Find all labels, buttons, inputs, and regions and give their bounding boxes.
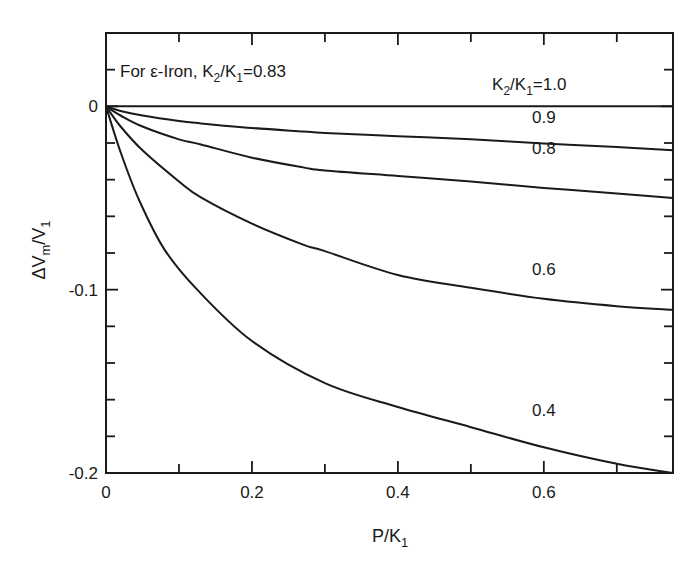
x-tick-label: 0.6 — [532, 483, 556, 502]
series-label-text: =1.0 — [533, 75, 567, 94]
y-axis-label-main: ΔV — [29, 256, 49, 280]
series-label-text: 0.4 — [532, 401, 556, 420]
plot-frame — [106, 33, 673, 473]
annotation-prefix: For ε-Iron, K — [120, 62, 214, 81]
x-axis-label: P/K1 — [372, 526, 408, 550]
x-tick-label: 0 — [101, 483, 110, 502]
annotation-suffix: =0.83 — [243, 62, 286, 81]
series-label-text: 0.9 — [532, 108, 556, 127]
series-label: 0.8 — [532, 139, 556, 158]
y-tick-label: -0.2 — [69, 464, 98, 483]
curves — [106, 106, 673, 473]
series-label-text: 0.6 — [532, 260, 556, 279]
series-label-text: 0.8 — [532, 139, 556, 158]
series-label: 0.9 — [532, 108, 556, 127]
series-line-0.8 — [106, 106, 673, 198]
x-axis-label-sub: 1 — [401, 535, 408, 550]
annotation-mid: /K — [220, 62, 237, 81]
series-label: 0.4 — [532, 401, 556, 420]
y-axis-label: ΔVm/V1 — [29, 220, 53, 279]
axis-ticks — [106, 33, 673, 473]
series-label-text: K — [492, 75, 504, 94]
y-axis-label-mid: /V — [29, 228, 49, 245]
y-axis-label-sub1: m — [38, 245, 53, 256]
series-line-0.9 — [106, 106, 673, 150]
y-tick-label: 0 — [89, 97, 98, 116]
x-tick-label: 0.2 — [240, 483, 264, 502]
y-tick-label: -0.1 — [69, 281, 98, 300]
annotation-text: For ε-Iron, K2/K1=0.83 — [120, 62, 286, 85]
series-label-text: /K — [510, 75, 527, 94]
series-label: K2/K1=1.0 — [492, 75, 566, 98]
x-tick-label: 0.4 — [386, 483, 410, 502]
chart: 00.20.40.60-0.1-0.2 For ε-Iron, K2/K1=0.… — [0, 0, 700, 579]
x-axis-label-main: P/K — [372, 526, 401, 546]
series-line-0.6 — [106, 106, 673, 310]
series-labels: K2/K1=1.00.90.80.60.4 — [492, 75, 566, 420]
tick-labels: 00.20.40.60-0.1-0.2 — [69, 97, 556, 502]
series-label: 0.6 — [532, 260, 556, 279]
series-line-0.4 — [106, 106, 673, 473]
y-axis-label-sub2: 1 — [38, 220, 53, 227]
